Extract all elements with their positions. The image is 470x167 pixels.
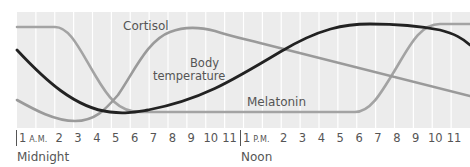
- pm-tick-10: 10: [428, 133, 443, 145]
- am-tick-10: 10: [203, 133, 218, 145]
- am-tick-8: 8: [169, 133, 176, 145]
- am-tick-6: 6: [131, 133, 138, 145]
- pm-tick-11: 11: [447, 133, 462, 145]
- pm-tick-3: 3: [299, 133, 306, 145]
- body-temperature-label: Body temperature: [153, 57, 219, 83]
- pm-tick-6: 6: [355, 133, 362, 145]
- tick-1pm: 1 P.M.: [243, 133, 270, 145]
- pm-tick-5: 5: [337, 133, 344, 145]
- tick-1am: 1 A.M.: [19, 133, 48, 145]
- cortisol-label: Cortisol: [123, 20, 169, 32]
- am-tick-11: 11: [222, 133, 237, 145]
- am-tick-3: 3: [74, 133, 81, 145]
- pm-tick-8: 8: [393, 133, 400, 145]
- noon-label: Noon: [241, 151, 272, 163]
- am-start-tick: [16, 130, 17, 146]
- pm-tick-7: 7: [374, 133, 381, 145]
- am-tick-2: 2: [55, 133, 62, 145]
- am-tick-7: 7: [150, 133, 157, 145]
- pm-tick-2: 2: [280, 133, 287, 145]
- am-tick-9: 9: [188, 133, 195, 145]
- melatonin-label: Melatonin: [247, 96, 306, 108]
- midnight-label: Midnight: [17, 151, 69, 163]
- pm-tick-9: 9: [412, 133, 419, 145]
- am-tick-4: 4: [93, 133, 100, 145]
- am-tick-5: 5: [112, 133, 119, 145]
- pm-start-tick: [240, 130, 241, 146]
- pm-tick-4: 4: [318, 133, 325, 145]
- body-temperature-label-line2: temperature: [153, 70, 219, 83]
